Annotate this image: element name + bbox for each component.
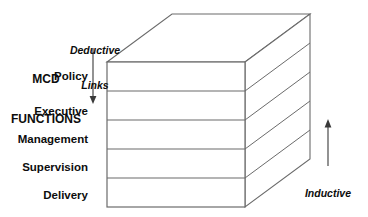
layer-label-supervision: Supervision: [0, 161, 88, 174]
diagram-canvas: Deductive Links MCD FUNCTIONS Policy Exe…: [0, 0, 368, 217]
layer-label-policy: Policy: [0, 70, 88, 83]
inductive-arrow-head: [325, 119, 332, 128]
inductive-links-label: Inductive Links: [297, 164, 359, 217]
layer-label-executive: Executive: [0, 105, 88, 118]
cuboid-front-face: [107, 62, 245, 207]
layer-label-delivery: Delivery: [0, 189, 88, 202]
layer-label-management: Management: [0, 133, 88, 146]
inductive-links-line1: Inductive: [297, 188, 359, 200]
